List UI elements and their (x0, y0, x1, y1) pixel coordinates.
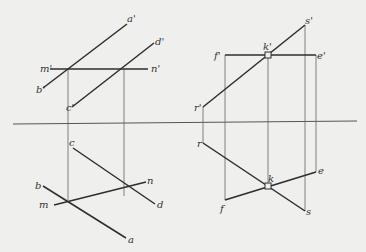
label-c: c (69, 137, 75, 148)
label-s: s (306, 206, 311, 217)
label-s-prime: s' (305, 15, 313, 26)
label-r-prime: r' (194, 102, 202, 113)
label-n: n (147, 175, 153, 186)
line-a-prime-b-prime (43, 24, 127, 88)
label-n-prime: n' (151, 63, 160, 74)
label-k-prime: k' (263, 41, 272, 52)
label-c-prime: c' (66, 102, 74, 113)
label-d: d (157, 199, 163, 210)
label-f-prime: f' (213, 50, 220, 61)
label-r: r (197, 138, 203, 149)
label-f: f (219, 203, 226, 214)
label-e: e (318, 165, 324, 176)
line-c-prime-d-prime (72, 43, 154, 107)
label-b-prime: b' (36, 84, 45, 95)
point-k-prime (265, 52, 271, 58)
label-d-prime: d' (155, 36, 164, 47)
label-a: a (128, 234, 134, 245)
line-r-s (203, 143, 305, 211)
label-k: k (268, 173, 274, 184)
label-m: m (39, 199, 48, 210)
projection-diagram: a' d' m' n' b' c' c n b m d a s' f' k' e… (0, 0, 366, 252)
line-r-prime-s-prime (203, 25, 305, 107)
label-m-prime: m' (40, 63, 52, 74)
label-e-prime: e' (317, 50, 326, 61)
line-c-d (73, 148, 155, 204)
label-a-prime: a' (127, 13, 136, 24)
label-b: b (35, 180, 41, 191)
line-b-a (43, 186, 126, 238)
